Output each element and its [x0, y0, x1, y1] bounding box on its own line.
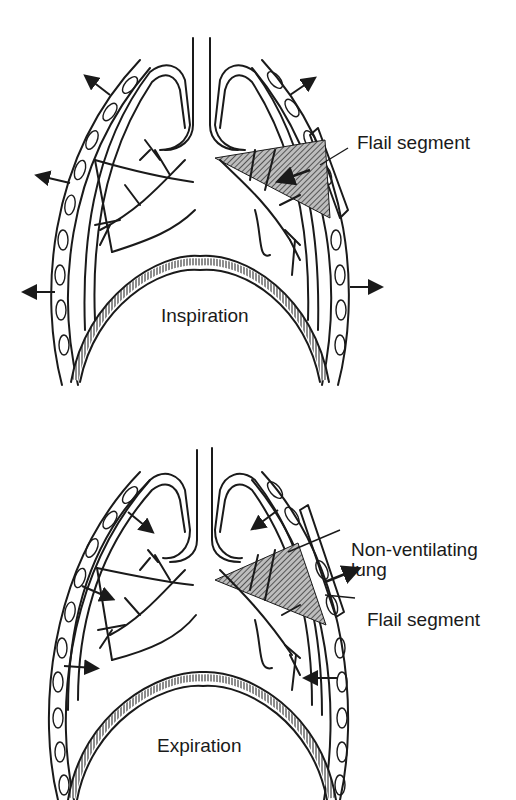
expiration-diagram: Non-ventilating lung Flail segment Expir… — [0, 420, 516, 800]
chest-cross-section-inspiration — [0, 0, 516, 400]
phase-label-expiration: Expiration — [157, 736, 242, 756]
arrow-icon — [40, 176, 70, 183]
arrow-icon — [88, 78, 110, 95]
flail-segment-label: Flail segment — [357, 133, 470, 153]
non-ventilating-lung-label-line2: lung — [351, 560, 387, 580]
phase-label-inspiration: Inspiration — [161, 306, 249, 326]
arrow-icon — [290, 80, 312, 95]
trachea — [165, 38, 238, 150]
hatched-flail-region — [215, 140, 330, 218]
inspiration-diagram: Flail segment Inspiration — [0, 0, 516, 400]
flail-segment-label: Flail segment — [367, 610, 480, 630]
hatched-non-ventilating-region — [215, 543, 326, 625]
arrow-icon — [128, 512, 150, 530]
non-ventilating-lung-label-line1: Non-ventilating — [351, 540, 478, 560]
